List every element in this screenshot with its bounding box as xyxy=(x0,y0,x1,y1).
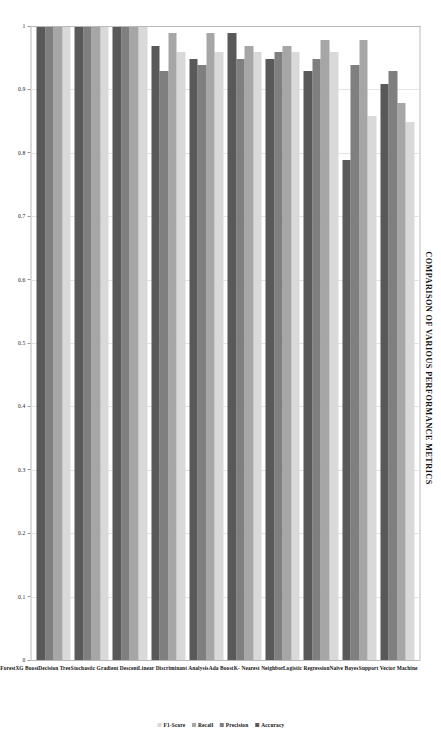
bar-track xyxy=(45,27,54,660)
axis-tick: 0.1 xyxy=(17,594,30,600)
bar-track xyxy=(380,27,389,660)
bar-track xyxy=(236,27,245,660)
bar[interactable] xyxy=(189,59,198,660)
bar[interactable] xyxy=(274,52,283,660)
bar[interactable] xyxy=(282,46,291,660)
category-label: Random Forest xyxy=(0,665,15,671)
bar-group xyxy=(301,27,339,660)
category-label: Naive Bayes xyxy=(329,665,358,671)
category-tick: Linear Discriminant Analysis xyxy=(138,661,208,722)
tick-mark xyxy=(27,660,30,661)
bar-group xyxy=(110,27,148,660)
bar-group xyxy=(225,27,263,660)
axis-tick: 0.9 xyxy=(17,86,30,92)
bar[interactable] xyxy=(45,27,54,660)
tick-mark xyxy=(27,279,30,280)
legend-item[interactable]: Precision xyxy=(220,722,249,728)
tick-mark xyxy=(27,469,30,470)
chart-title: COMPARISON OF VARIOUS PERFORMANCE METRIC… xyxy=(420,0,441,736)
bar-track xyxy=(100,27,109,660)
category-tick: Ada Boost xyxy=(208,661,233,722)
bar-track xyxy=(367,27,376,660)
bar[interactable] xyxy=(312,59,321,660)
bar[interactable] xyxy=(214,52,223,660)
bar[interactable] xyxy=(227,33,236,660)
tick-label: 0.9 xyxy=(17,86,25,92)
bar-group xyxy=(149,27,187,660)
bar[interactable] xyxy=(36,27,45,660)
bar-track xyxy=(265,27,274,660)
bar[interactable] xyxy=(62,27,71,660)
bar-track xyxy=(214,27,223,660)
bar-group xyxy=(263,27,301,660)
bar[interactable] xyxy=(329,52,338,660)
bar-track xyxy=(189,27,198,660)
bar[interactable] xyxy=(112,27,121,660)
value-axis-row: 10.90.80.70.60.50.40.30.20.10 xyxy=(0,0,30,736)
bar[interactable] xyxy=(303,71,312,660)
legend-item[interactable]: Accuracy xyxy=(255,722,284,728)
bar[interactable] xyxy=(350,65,359,660)
value-axis: 10.90.80.70.60.50.40.30.20.10 xyxy=(0,26,30,660)
legend-swatch-icon xyxy=(191,723,195,727)
bar-track xyxy=(83,27,92,660)
bar[interactable] xyxy=(197,65,206,660)
tick-mark xyxy=(27,406,30,407)
axis-tick: 0.7 xyxy=(17,213,30,219)
bar-track xyxy=(159,27,168,660)
bar[interactable] xyxy=(100,27,109,660)
bar[interactable] xyxy=(291,52,300,660)
tick-label: 0.6 xyxy=(17,277,25,283)
bar[interactable] xyxy=(168,33,177,660)
axis-tick: 0 xyxy=(22,657,30,663)
legend-label: Recall xyxy=(197,722,212,728)
bar-track xyxy=(129,27,138,660)
bar[interactable] xyxy=(83,27,92,660)
bar[interactable] xyxy=(265,59,274,660)
bar-group xyxy=(34,27,72,660)
bar-track xyxy=(321,27,330,660)
bar[interactable] xyxy=(53,27,62,660)
bar[interactable] xyxy=(138,27,147,660)
bar-track xyxy=(274,27,283,660)
tick-label: 0.5 xyxy=(17,340,25,346)
bar[interactable] xyxy=(129,27,138,660)
bar-track xyxy=(151,27,160,660)
bar[interactable] xyxy=(151,46,160,660)
legend-item[interactable]: Recall xyxy=(191,722,212,728)
chart-legend: AccuracyPrecisionRecallF1-Score xyxy=(157,722,285,728)
bar[interactable] xyxy=(367,116,376,660)
bar[interactable] xyxy=(74,27,83,660)
bar[interactable] xyxy=(388,71,397,660)
bar-track xyxy=(350,27,359,660)
bar[interactable] xyxy=(244,46,253,660)
bar-track xyxy=(329,27,338,660)
bar[interactable] xyxy=(159,71,168,660)
performance-metrics-chart: COMPARISON OF VARIOUS PERFORMANCE METRIC… xyxy=(0,0,441,736)
bar[interactable] xyxy=(91,27,100,660)
bar[interactable] xyxy=(121,27,130,660)
bar[interactable] xyxy=(236,59,245,660)
tick-mark xyxy=(27,533,30,534)
bar-track xyxy=(197,27,206,660)
plot-row: Support Vector MachineNaive BayesLogisti… xyxy=(30,26,420,722)
tick-label: 0.3 xyxy=(17,467,25,473)
bar[interactable] xyxy=(397,103,406,660)
bar[interactable] xyxy=(253,52,262,660)
bar[interactable] xyxy=(405,122,414,660)
tick-mark xyxy=(27,26,30,27)
category-axis: Support Vector MachineNaive BayesLogisti… xyxy=(30,660,420,722)
bar[interactable] xyxy=(359,40,368,660)
bar[interactable] xyxy=(321,40,330,660)
bar[interactable] xyxy=(380,84,389,660)
category-tick: Support Vector Machine xyxy=(358,661,417,722)
bar[interactable] xyxy=(206,33,215,660)
tick-mark xyxy=(27,216,30,217)
bar-track xyxy=(397,27,406,660)
bar[interactable] xyxy=(176,52,185,660)
bar-track xyxy=(138,27,147,660)
category-label: Linear Discriminant Analysis xyxy=(138,665,208,671)
bar[interactable] xyxy=(342,160,351,660)
legend-item[interactable]: F1-Score xyxy=(157,722,185,728)
tick-label: 0.1 xyxy=(17,594,25,600)
